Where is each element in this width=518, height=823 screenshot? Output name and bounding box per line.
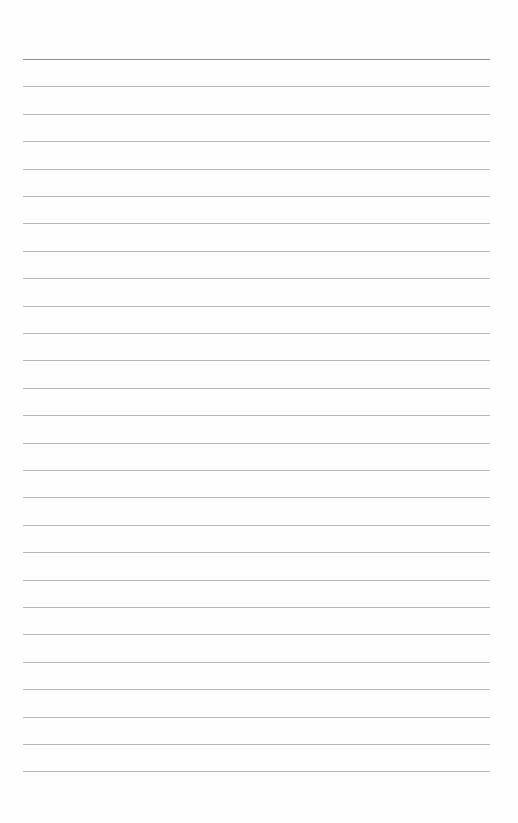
rule-line xyxy=(23,223,490,224)
rule-line xyxy=(23,251,490,252)
rule-line xyxy=(23,497,490,498)
rule-line xyxy=(23,169,490,170)
rule-line xyxy=(23,662,490,663)
rule-line xyxy=(23,443,490,444)
rule-line xyxy=(23,278,490,279)
rule-line xyxy=(23,360,490,361)
rule-line xyxy=(23,580,490,581)
top-rule-line xyxy=(23,59,490,60)
rule-line xyxy=(23,388,490,389)
rule-line xyxy=(23,607,490,608)
rule-line xyxy=(23,771,490,772)
lined-paper-page xyxy=(0,0,518,823)
rule-line xyxy=(23,306,490,307)
rule-line xyxy=(23,525,490,526)
rule-line xyxy=(23,470,490,471)
rule-line xyxy=(23,333,490,334)
rule-line xyxy=(23,196,490,197)
rule-line xyxy=(23,634,490,635)
rule-line xyxy=(23,86,490,87)
rule-line xyxy=(23,552,490,553)
rule-line xyxy=(23,717,490,718)
rule-line xyxy=(23,689,490,690)
rule-line xyxy=(23,744,490,745)
rule-line xyxy=(23,114,490,115)
rule-line xyxy=(23,415,490,416)
rule-line xyxy=(23,141,490,142)
